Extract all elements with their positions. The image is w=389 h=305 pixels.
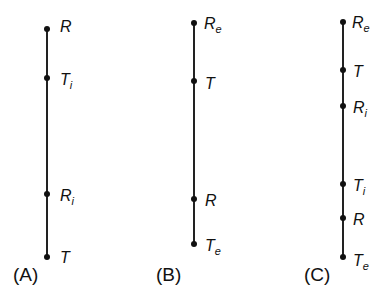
point-dot xyxy=(340,67,346,73)
point-dot xyxy=(340,215,346,221)
point-label: Te xyxy=(353,253,369,274)
point-dot xyxy=(191,78,197,84)
point-dot xyxy=(44,75,50,81)
point-label: Re xyxy=(204,16,222,37)
point-dot xyxy=(340,254,346,260)
axis-line xyxy=(342,22,344,257)
point-label: T xyxy=(205,76,215,97)
point-label: Ri xyxy=(353,100,367,121)
point-dot xyxy=(44,191,50,197)
point-label: Re xyxy=(352,15,370,36)
point-label: T xyxy=(353,64,363,85)
point-dot xyxy=(191,20,197,26)
point-dot xyxy=(340,19,346,25)
point-label: Ti xyxy=(353,178,365,199)
point-dot xyxy=(44,254,50,260)
point-dot xyxy=(191,196,197,202)
axis-line xyxy=(193,23,195,244)
panel-label: (A) xyxy=(13,265,38,284)
point-dot xyxy=(340,181,346,187)
axis-line xyxy=(46,29,48,258)
point-dot xyxy=(191,241,197,247)
point-label: T xyxy=(60,250,70,271)
point-label: Te xyxy=(205,238,221,259)
point-label: Ti xyxy=(60,72,72,93)
point-dot xyxy=(44,26,50,32)
panel-label: (B) xyxy=(156,265,181,284)
point-label: R xyxy=(205,193,217,214)
point-label: R xyxy=(60,19,72,40)
point-label: Ri xyxy=(60,188,74,209)
point-label: R xyxy=(353,212,365,233)
panel-label: (C) xyxy=(304,265,330,284)
point-dot xyxy=(340,103,346,109)
